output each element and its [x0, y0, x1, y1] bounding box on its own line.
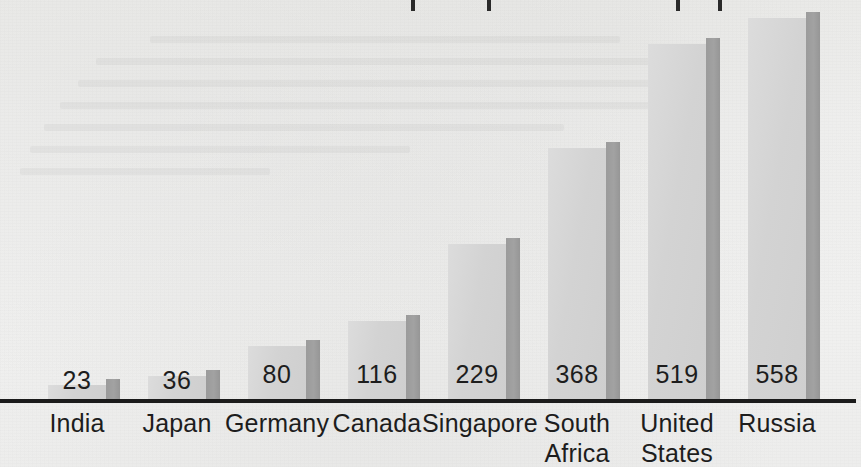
x-axis-label-south-africa: South Africa [522, 408, 632, 467]
bar-side-panel [506, 238, 520, 401]
x-axis-label-singapore: Singapore [422, 408, 532, 438]
bar-value-label: 36 [148, 368, 206, 393]
bar-value-label: 519 [648, 362, 706, 387]
bar-chart: 23 36 80 116 229 368 [0, 0, 861, 467]
bar-side-panel [106, 379, 120, 401]
bar-side-panel [606, 142, 620, 401]
bar-face [748, 18, 806, 401]
bar-side-panel [306, 340, 320, 401]
bar-value-label: 23 [48, 368, 106, 393]
bar-value-label: 116 [348, 362, 406, 387]
x-axis-label-japan: Japan [122, 408, 232, 438]
x-axis-label-germany: Germany [222, 408, 332, 438]
bar-value-label: 368 [548, 362, 606, 387]
bar-side-panel [806, 12, 820, 401]
x-axis-label-canada: Canada [322, 408, 432, 438]
x-axis-label-united-states: United States [622, 408, 732, 467]
bar-value-label: 558 [748, 362, 806, 387]
bar-value-label: 229 [448, 362, 506, 387]
x-axis-label-russia: Russia [722, 408, 832, 438]
x-axis-line [0, 399, 856, 403]
bar-side-panel [406, 315, 420, 401]
bar-value-label: 80 [248, 362, 306, 387]
bar-face [648, 44, 706, 401]
bar-side-panel [706, 38, 720, 401]
x-axis-label-india: India [22, 408, 132, 438]
bar-side-panel [206, 370, 220, 401]
plot-area: 23 36 80 116 229 368 [0, 0, 861, 467]
